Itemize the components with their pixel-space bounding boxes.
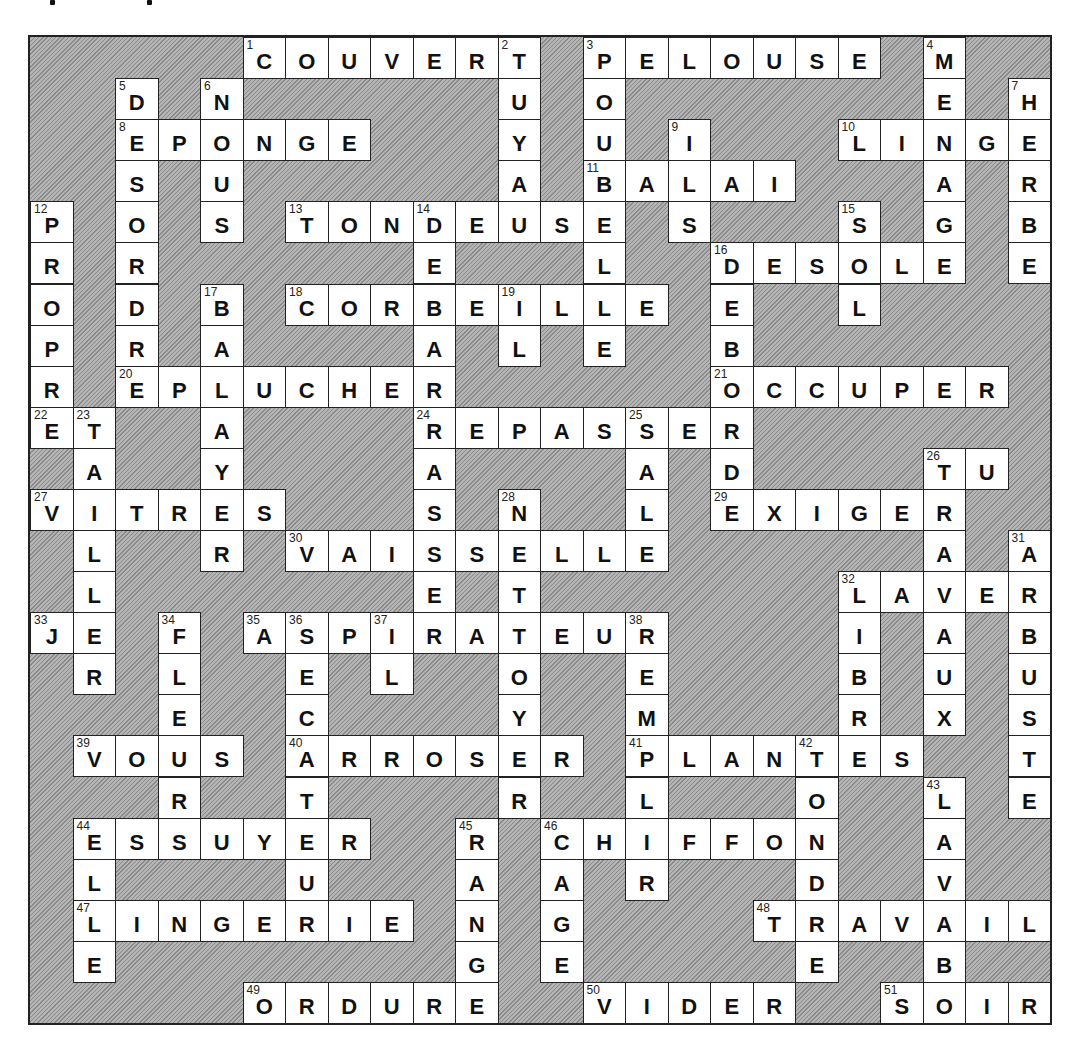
- crossword-cell[interactable]: R: [73, 653, 117, 695]
- crossword-cell[interactable]: E: [540, 612, 584, 654]
- crossword-cell[interactable]: A: [540, 407, 584, 449]
- crossword-cell[interactable]: P: [30, 325, 74, 367]
- crossword-cell[interactable]: A: [455, 859, 499, 901]
- crossword-cell[interactable]: S: [243, 489, 287, 531]
- crossword-cell[interactable]: 22E: [30, 407, 74, 449]
- crossword-cell[interactable]: I: [753, 160, 797, 202]
- crossword-cell[interactable]: E: [1008, 119, 1052, 161]
- crossword-cell[interactable]: V: [880, 900, 924, 942]
- crossword-cell[interactable]: D: [668, 982, 712, 1024]
- crossword-cell[interactable]: R: [413, 612, 457, 654]
- crossword-cell[interactable]: 7H: [1008, 78, 1052, 120]
- crossword-cell[interactable]: A: [923, 612, 967, 654]
- crossword-cell[interactable]: E: [625, 530, 669, 572]
- crossword-cell[interactable]: U: [243, 366, 287, 408]
- crossword-cell[interactable]: U: [370, 982, 414, 1024]
- crossword-cell[interactable]: R: [498, 777, 542, 819]
- crossword-cell[interactable]: A: [73, 448, 117, 490]
- crossword-cell[interactable]: S: [158, 818, 202, 860]
- crossword-cell[interactable]: 14D: [413, 201, 457, 243]
- crossword-cell[interactable]: E: [625, 653, 669, 695]
- crossword-cell[interactable]: R: [413, 982, 457, 1024]
- crossword-cell[interactable]: V: [923, 571, 967, 613]
- crossword-cell[interactable]: L: [838, 284, 882, 326]
- crossword-cell[interactable]: 48T: [753, 900, 797, 942]
- crossword-cell[interactable]: A: [625, 448, 669, 490]
- crossword-cell[interactable]: H: [583, 818, 627, 860]
- crossword-cell[interactable]: 47L: [73, 900, 117, 942]
- crossword-cell[interactable]: B: [838, 653, 882, 695]
- crossword-cell[interactable]: I: [370, 530, 414, 572]
- crossword-cell[interactable]: S: [115, 160, 159, 202]
- crossword-cell[interactable]: 17B: [200, 284, 244, 326]
- crossword-cell[interactable]: R: [328, 735, 372, 777]
- crossword-cell[interactable]: 11B: [583, 160, 627, 202]
- crossword-cell[interactable]: A: [413, 325, 457, 367]
- crossword-cell[interactable]: G: [455, 941, 499, 983]
- crossword-cell[interactable]: 15S: [838, 201, 882, 243]
- crossword-cell[interactable]: 21O: [710, 366, 754, 408]
- crossword-cell[interactable]: L: [583, 530, 627, 572]
- crossword-cell[interactable]: I: [115, 900, 159, 942]
- crossword-cell[interactable]: B: [413, 284, 457, 326]
- crossword-cell[interactable]: S: [200, 735, 244, 777]
- crossword-cell[interactable]: 34F: [158, 612, 202, 654]
- crossword-cell[interactable]: R: [923, 489, 967, 531]
- crossword-cell[interactable]: N: [753, 735, 797, 777]
- crossword-cell[interactable]: O: [285, 37, 329, 79]
- crossword-cell[interactable]: E: [965, 571, 1009, 613]
- crossword-cell[interactable]: Y: [498, 119, 542, 161]
- crossword-cell[interactable]: U: [583, 119, 627, 161]
- crossword-cell[interactable]: A: [838, 900, 882, 942]
- crossword-cell[interactable]: L: [73, 571, 117, 613]
- crossword-cell[interactable]: D: [115, 284, 159, 326]
- crossword-cell[interactable]: V: [370, 37, 414, 79]
- crossword-cell[interactable]: G: [965, 119, 1009, 161]
- crossword-cell[interactable]: E: [455, 201, 499, 243]
- crossword-cell[interactable]: L: [540, 284, 584, 326]
- crossword-cell[interactable]: R: [158, 489, 202, 531]
- crossword-cell[interactable]: E: [1008, 242, 1052, 284]
- crossword-cell[interactable]: E: [413, 242, 457, 284]
- crossword-cell[interactable]: 6N: [200, 78, 244, 120]
- crossword-cell[interactable]: S: [455, 735, 499, 777]
- crossword-cell[interactable]: I: [965, 900, 1009, 942]
- crossword-cell[interactable]: S: [1008, 694, 1052, 736]
- crossword-cell[interactable]: E: [838, 735, 882, 777]
- crossword-cell[interactable]: E: [668, 407, 712, 449]
- crossword-cell[interactable]: R: [158, 777, 202, 819]
- crossword-cell[interactable]: G: [540, 900, 584, 942]
- crossword-cell[interactable]: O: [30, 284, 74, 326]
- crossword-cell[interactable]: 39V: [73, 735, 117, 777]
- crossword-cell[interactable]: 12P: [30, 201, 74, 243]
- crossword-cell[interactable]: T: [115, 489, 159, 531]
- crossword-cell[interactable]: S: [115, 818, 159, 860]
- crossword-cell[interactable]: E: [285, 818, 329, 860]
- crossword-cell[interactable]: E: [1008, 777, 1052, 819]
- crossword-cell[interactable]: N: [923, 119, 967, 161]
- crossword-cell[interactable]: U: [753, 37, 797, 79]
- crossword-cell[interactable]: D: [710, 448, 754, 490]
- crossword-cell[interactable]: T: [498, 612, 542, 654]
- crossword-cell[interactable]: E: [370, 366, 414, 408]
- crossword-cell[interactable]: 37I: [370, 612, 414, 654]
- crossword-cell[interactable]: E: [753, 242, 797, 284]
- crossword-cell[interactable]: 23T: [73, 407, 117, 449]
- crossword-cell[interactable]: O: [115, 735, 159, 777]
- crossword-cell[interactable]: N: [158, 900, 202, 942]
- crossword-cell[interactable]: A: [200, 407, 244, 449]
- crossword-cell[interactable]: U: [583, 612, 627, 654]
- crossword-cell[interactable]: L: [880, 242, 924, 284]
- crossword-cell[interactable]: O: [328, 201, 372, 243]
- crossword-cell[interactable]: E: [710, 284, 754, 326]
- crossword-cell[interactable]: L: [1008, 900, 1052, 942]
- crossword-cell[interactable]: 43L: [923, 777, 967, 819]
- crossword-cell[interactable]: N: [243, 119, 287, 161]
- crossword-cell[interactable]: 4M: [923, 37, 967, 79]
- crossword-cell[interactable]: 42T: [795, 735, 839, 777]
- crossword-cell[interactable]: E: [795, 941, 839, 983]
- crossword-cell[interactable]: R: [965, 366, 1009, 408]
- crossword-cell[interactable]: O: [753, 818, 797, 860]
- crossword-cell[interactable]: E: [498, 530, 542, 572]
- crossword-cell[interactable]: E: [413, 571, 457, 613]
